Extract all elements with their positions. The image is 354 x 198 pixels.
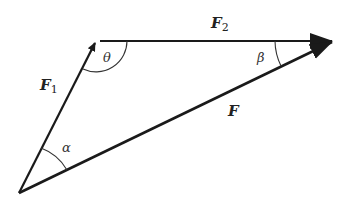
label-beta: β xyxy=(256,50,265,65)
vector-f1 xyxy=(19,43,95,193)
label-f2: F2 xyxy=(210,14,229,34)
label-alpha: α xyxy=(62,140,71,155)
angle-arc-beta xyxy=(275,41,281,66)
label-f1: F1 xyxy=(39,76,58,96)
vector-triangle-diagram: F1 F2 F θ β α xyxy=(0,0,354,198)
label-theta: θ xyxy=(103,50,111,65)
label-f: F xyxy=(227,102,240,120)
vector-f-resultant xyxy=(19,42,332,193)
